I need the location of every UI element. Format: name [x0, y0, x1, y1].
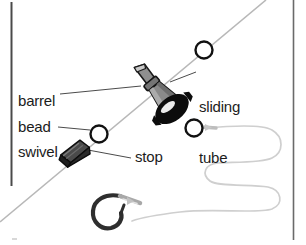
label-sliding-tube: sliding tube — [199, 64, 240, 200]
leader-bead — [58, 127, 90, 130]
label-barrel-swivel-line1: barrel — [18, 92, 58, 109]
label-sliding-tube-line1: sliding — [199, 98, 240, 115]
leader-barrel-swivel — [60, 86, 141, 94]
bead-lower-icon — [91, 126, 108, 143]
stop-block-icon — [56, 138, 92, 170]
label-bead: bead — [18, 118, 51, 135]
fishing-rig-diagram: barrel swivel sliding tube bead stop — [0, 0, 306, 245]
label-sliding-tube-line2: tube — [199, 149, 240, 166]
bottom-artifact-mark — [12, 238, 17, 240]
fishing-hook-icon — [93, 195, 140, 228]
label-barrel-swivel-line2: swivel — [18, 143, 58, 160]
leader-stop — [88, 150, 131, 158]
label-stop: stop — [135, 148, 163, 165]
bead-upper-icon — [196, 42, 213, 59]
